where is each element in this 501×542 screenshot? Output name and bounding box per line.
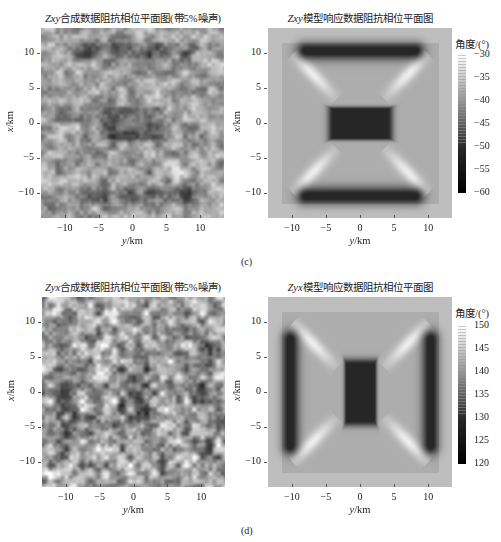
- colorbar-tick-label: −55: [474, 163, 490, 174]
- x-tick-label: −10: [280, 491, 304, 502]
- y-axis-label: x/km: [4, 102, 15, 142]
- y-tick-mark: [264, 123, 267, 124]
- x-tick-mark: [326, 484, 327, 487]
- x-tick-mark: [360, 215, 361, 218]
- y-tick-mark: [264, 322, 267, 323]
- y-tick-mark: [264, 53, 267, 54]
- y-tick-label: −10: [235, 455, 261, 466]
- y-tick-label: 5: [9, 350, 35, 361]
- x-tick-mark: [428, 484, 429, 487]
- colorbar-tick-label: −50: [474, 140, 490, 151]
- colorbar-tick-label: 130: [474, 411, 489, 422]
- y-tick-mark: [37, 123, 40, 124]
- colorbar-tick-label: 125: [474, 434, 489, 445]
- x-tick-mark: [99, 215, 100, 218]
- y-tick-label: −5: [9, 420, 35, 431]
- x-axis-label: y/km: [103, 235, 163, 246]
- colorbar-tick-label: −45: [474, 117, 490, 128]
- colorbar-tick-label: −30: [474, 48, 490, 59]
- y-axis-label: x/km: [5, 371, 16, 411]
- y-tick-mark: [264, 158, 267, 159]
- colorbar-tick-label: 140: [474, 365, 489, 376]
- x-tick-label: 10: [416, 222, 440, 233]
- y-tick-mark: [38, 392, 41, 393]
- x-axis-label: y/km: [330, 504, 390, 515]
- x-tick-label: 0: [121, 222, 145, 233]
- y-tick-mark: [264, 193, 267, 194]
- x-tick-label: 5: [154, 222, 178, 233]
- title-italic: Zxy: [45, 13, 60, 24]
- chart-title-d-right: Zyx模型响应数据阻抗相位平面图: [268, 279, 452, 294]
- x-tick-label: 10: [189, 491, 213, 502]
- title-text: 模型响应数据阻抗相位平面图: [303, 282, 433, 293]
- x-axis-label: y/km: [330, 235, 390, 246]
- chart-title-c-left: Zxy合成数据阻抗相位平面图(带5%噪声): [41, 10, 225, 25]
- y-tick-mark: [37, 158, 40, 159]
- x-tick-mark: [360, 484, 361, 487]
- x-tick-label: 0: [122, 491, 146, 502]
- title-italic: Zxy: [287, 13, 302, 24]
- title-italic: Zyx: [287, 282, 302, 293]
- y-tick-label: 10: [235, 315, 261, 326]
- x-tick-mark: [292, 484, 293, 487]
- heatmap-c-right: [268, 28, 452, 218]
- colorbar-tick-label: −35: [474, 71, 490, 82]
- y-tick-mark: [37, 53, 40, 54]
- y-tick-label: −5: [8, 151, 34, 162]
- x-tick-label: −5: [87, 222, 111, 233]
- y-tick-mark: [38, 462, 41, 463]
- y-tick-label: −10: [8, 186, 34, 197]
- y-tick-mark: [264, 88, 267, 89]
- title-text: 合成数据阻抗相位平面图(带5%噪声): [60, 282, 221, 293]
- x-tick-mark: [166, 215, 167, 218]
- y-tick-label: 5: [235, 81, 261, 92]
- colorbar-tick-label: −60: [474, 186, 490, 197]
- y-tick-label: 10: [9, 315, 35, 326]
- panel-label-d: (d): [241, 525, 253, 536]
- y-tick-mark: [264, 462, 267, 463]
- heatmap-c-left: [41, 28, 224, 218]
- y-axis-label: x/km: [231, 102, 242, 142]
- x-tick-mark: [394, 484, 395, 487]
- x-tick-mark: [428, 215, 429, 218]
- y-tick-mark: [264, 357, 267, 358]
- chart-title-c-right: Zxy模型响应数据阻抗相位平面图: [268, 10, 452, 25]
- y-tick-label: 10: [235, 46, 261, 57]
- x-tick-label: 10: [188, 222, 212, 233]
- panel-label-c: (c): [241, 256, 252, 267]
- x-tick-label: −5: [88, 491, 112, 502]
- x-tick-label: 0: [348, 491, 372, 502]
- heatmap-d-left: [42, 297, 225, 487]
- y-tick-label: 5: [8, 81, 34, 92]
- heatmap-d-right: [268, 297, 452, 487]
- x-tick-mark: [134, 484, 135, 487]
- y-tick-label: −5: [235, 420, 261, 431]
- x-tick-label: 5: [382, 491, 406, 502]
- y-tick-label: 10: [8, 46, 34, 57]
- chart-title-d-left: Zyx合成数据阻抗相位平面图(带5%噪声): [41, 279, 225, 294]
- colorbar-c: [458, 55, 466, 193]
- x-tick-mark: [133, 215, 134, 218]
- y-tick-mark: [37, 88, 40, 89]
- x-tick-mark: [201, 484, 202, 487]
- y-tick-mark: [37, 193, 40, 194]
- x-tick-label: −5: [314, 491, 338, 502]
- x-tick-label: 10: [416, 491, 440, 502]
- x-tick-label: −10: [280, 222, 304, 233]
- x-tick-mark: [66, 484, 67, 487]
- x-tick-label: 0: [348, 222, 372, 233]
- y-tick-label: −10: [9, 455, 35, 466]
- x-tick-mark: [326, 215, 327, 218]
- y-tick-mark: [38, 357, 41, 358]
- colorbar-tick-label: −40: [474, 94, 490, 105]
- x-tick-label: −5: [314, 222, 338, 233]
- x-tick-label: 5: [382, 222, 406, 233]
- colorbar-tick-label: 145: [474, 342, 489, 353]
- y-tick-mark: [264, 392, 267, 393]
- y-tick-label: 5: [235, 350, 261, 361]
- y-tick-mark: [38, 427, 41, 428]
- x-axis-label: y/km: [104, 504, 164, 515]
- colorbar-title-d: 角度/(°): [455, 305, 489, 320]
- colorbar-tick-label: 120: [474, 457, 489, 468]
- y-tick-mark: [38, 322, 41, 323]
